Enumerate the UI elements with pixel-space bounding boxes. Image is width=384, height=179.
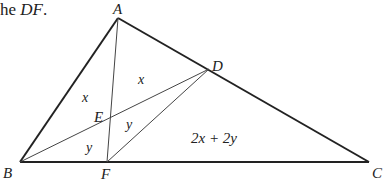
region-y-lower: y (84, 140, 93, 155)
label-e: E (93, 109, 103, 125)
triangle-diagram: A B C D E F x x y y 2x + 2y (0, 0, 384, 179)
region-big: 2x + 2y (191, 130, 237, 146)
label-f: F (100, 166, 111, 179)
side-ac (118, 18, 369, 162)
segment-af (107, 18, 118, 162)
region-x-upper: x (137, 72, 145, 87)
segment-df (107, 69, 209, 162)
label-b: B (3, 165, 12, 179)
side-ab (20, 18, 118, 162)
label-c: C (372, 165, 383, 179)
region-x-left: x (81, 90, 89, 105)
label-d: D (211, 58, 223, 74)
label-a: A (112, 1, 123, 17)
region-y-middle: y (124, 117, 133, 132)
segment-bd (20, 69, 209, 162)
